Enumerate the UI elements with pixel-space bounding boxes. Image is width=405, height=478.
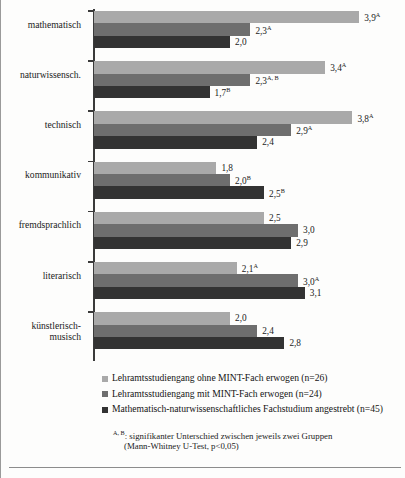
- bar-value-label: 2,0: [230, 37, 247, 47]
- figure-page: mathematisch3,9A2,3A2,0naturwissensch.3,…: [0, 0, 405, 478]
- bar-row: 2,9: [94, 237, 405, 249]
- category-label: mathematisch: [0, 19, 88, 30]
- legend-label: Lehramtsstudiengang ohne MINT-Fach erwog…: [112, 372, 328, 383]
- footnote-line-2: (Mann-Whitney U-Test, p<0,05): [113, 441, 398, 452]
- legend-item: Lehramtsstudiengang mit MINT-Fach erwoge…: [102, 388, 402, 399]
- bar: [94, 111, 352, 123]
- bar-row: 2,4: [94, 136, 405, 148]
- bar: [94, 124, 291, 136]
- bar-row: 2,8: [94, 337, 405, 349]
- bar-value-label: 2,4: [257, 326, 274, 336]
- bar-chart: mathematisch3,9A2,3A2,0naturwissensch.3,…: [1, 0, 405, 368]
- bar-value-label: 3,8A: [352, 112, 373, 124]
- bar: [94, 74, 250, 86]
- bar-value-label: 2,0: [230, 313, 247, 323]
- legend-swatch-icon: [102, 391, 108, 397]
- bottom-divider: [9, 467, 401, 468]
- bar-value-label: 2,3A, B: [250, 74, 278, 86]
- bar-row: 2,3A: [94, 23, 405, 35]
- bar: [94, 11, 359, 23]
- category-label: literarisch: [0, 270, 88, 281]
- bar-row: 2,0B: [94, 174, 405, 186]
- bar: [94, 287, 305, 299]
- footnote-line-1: : signifikanter Unterschied zwischen jew…: [125, 431, 333, 441]
- legend-item: Lehramtsstudiengang ohne MINT-Fach erwog…: [102, 372, 402, 383]
- bar-row: 2,5B: [94, 186, 405, 198]
- bar-row: 1,8: [94, 162, 405, 174]
- chart-footnote: A, B: signifikanter Unterschied zwischen…: [113, 428, 398, 452]
- bar-row: 3,1: [94, 287, 405, 299]
- bar-value-label: 3,9A: [359, 11, 380, 23]
- legend-swatch-icon: [102, 376, 108, 382]
- bar-row: 3,9A: [94, 11, 405, 23]
- legend-item: Mathematisch-naturwissenschaftliches Fac…: [102, 403, 402, 414]
- bar-value-label: 2,1A: [237, 262, 258, 274]
- category-label: naturwissensch.: [0, 69, 88, 80]
- category-label: technisch: [0, 119, 88, 130]
- bar-value-label: 3,0: [298, 225, 315, 235]
- bar-row: 1,7B: [94, 86, 405, 98]
- bar: [94, 325, 257, 337]
- bar-row: 3,0: [94, 224, 405, 236]
- bar-row: 2,1A: [94, 262, 405, 274]
- bar: [94, 337, 284, 349]
- bar-value-label: 2,4: [257, 137, 274, 147]
- bar-value-label: 2,9: [291, 238, 308, 248]
- footnote-marks: A, B: [113, 429, 125, 436]
- bar: [94, 61, 325, 73]
- bar-row: 2,0: [94, 312, 405, 324]
- bar-value-label: 2,9A: [291, 124, 312, 136]
- bar-value-label: 2,0B: [230, 174, 251, 186]
- bar: [94, 86, 210, 98]
- bar: [94, 274, 298, 286]
- bar-value-label: 2,3A: [250, 24, 271, 36]
- bar-value-label: 3,0A: [298, 275, 319, 287]
- bar-row: 3,8A: [94, 111, 405, 123]
- bar-value-label: 3,1: [305, 288, 322, 298]
- legend-swatch-icon: [102, 407, 108, 413]
- category-label: kommunikativ: [0, 169, 88, 180]
- bar-value-label: 2,8: [284, 338, 301, 348]
- bar-row: 2,9A: [94, 124, 405, 136]
- legend-label: Mathematisch-naturwissenschaftliches Fac…: [112, 403, 383, 414]
- bar-row: 3,4A: [94, 61, 405, 73]
- bar-value-label: 1,8: [216, 163, 233, 173]
- legend-label: Lehramtsstudiengang mit MINT-Fach erwoge…: [112, 388, 322, 399]
- bar: [94, 174, 230, 186]
- bar-row: 3,0A: [94, 274, 405, 286]
- bar: [94, 23, 250, 35]
- bar-row: 2,4: [94, 325, 405, 337]
- bar: [94, 36, 230, 48]
- bar-value-label: 2,5: [264, 213, 281, 223]
- bar: [94, 262, 237, 274]
- category-label: künstlerisch-musisch: [0, 320, 88, 342]
- bar-row: 2,3A, B: [94, 74, 405, 86]
- bar-row: 2,0: [94, 36, 405, 48]
- bar: [94, 186, 264, 198]
- category-label: fremdsprachlich: [0, 219, 88, 230]
- bar-value-label: 3,4A: [325, 61, 346, 73]
- bar: [94, 212, 264, 224]
- bar-row: 2,5: [94, 212, 405, 224]
- bar-value-label: 2,5B: [264, 187, 285, 199]
- bar: [94, 162, 216, 174]
- bar: [94, 237, 291, 249]
- bar-value-label: 1,7B: [210, 86, 231, 98]
- chart-legend: Lehramtsstudiengang ohne MINT-Fach erwog…: [102, 372, 402, 419]
- bar: [94, 312, 230, 324]
- bar: [94, 224, 298, 236]
- bar: [94, 136, 257, 148]
